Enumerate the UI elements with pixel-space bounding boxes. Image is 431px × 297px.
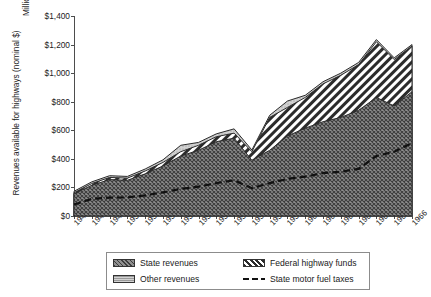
y-axis-tick-label: $1,200 <box>45 40 70 50</box>
y-axis-tick-label: $400 <box>52 154 70 164</box>
y-axis-tick-label: $800 <box>52 97 70 107</box>
legend-item[interactable]: State revenues <box>113 255 243 271</box>
area-state-revenues <box>74 92 412 216</box>
chart-legend: State revenuesFederal highway fundsOther… <box>106 252 370 290</box>
x-axis-tick-label: 1966 <box>410 208 429 227</box>
legend-label: State motor fuel taxes <box>270 274 354 284</box>
legend-swatch-icon <box>243 275 265 283</box>
y-axis-tick-label: $200 <box>52 182 70 192</box>
legend-label: Federal highway funds <box>270 258 356 268</box>
y-axis-tick-label: $1,400 <box>45 11 70 21</box>
legend-item[interactable]: Other revenues <box>113 271 243 287</box>
legend-swatch-icon <box>113 259 135 267</box>
y-axis-title: Revenues available for highways (nominal… <box>11 13 21 213</box>
legend-label: State revenues <box>140 258 198 268</box>
legend-swatch-icon <box>243 259 265 267</box>
y-axis-units-label: Millions <box>21 0 31 16</box>
y-axis-tick-label: $600 <box>52 125 70 135</box>
legend-label: Other revenues <box>140 274 199 284</box>
legend-swatch-icon <box>113 275 135 283</box>
y-axis-tick-label: $0 <box>61 211 70 221</box>
plot-area: $0$200$400$600$800$1,000$1,200$1,400 194… <box>74 16 412 216</box>
legend-item[interactable]: State motor fuel taxes <box>243 271 377 287</box>
chart-figure: Revenues available for highways (nominal… <box>0 0 431 297</box>
legend-item[interactable]: Federal highway funds <box>243 255 377 271</box>
series-layer <box>74 16 412 216</box>
y-axis-tick-label: $1,000 <box>45 68 70 78</box>
